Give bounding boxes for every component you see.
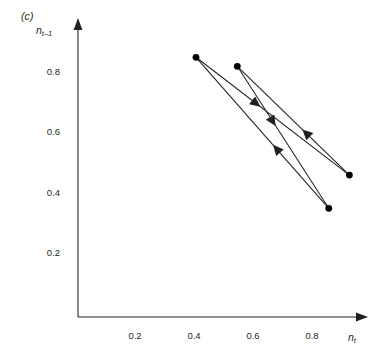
figure-panel-c: (c) nt–1 nt 0.8 0.6 0.4 0.2 0.2 0.4 0.6 … xyxy=(0,0,385,355)
data-point-marker xyxy=(325,205,332,212)
y-axis xyxy=(74,18,83,317)
y-axis-arrowhead-icon xyxy=(74,18,83,30)
trajectory-segment xyxy=(237,66,349,175)
plot-area xyxy=(0,0,385,355)
x-axis-arrowhead-icon xyxy=(356,313,368,322)
data-point-marker xyxy=(346,172,353,179)
trajectory-arrowhead-icon xyxy=(266,114,280,128)
data-point-marker xyxy=(234,63,241,70)
trajectory-series xyxy=(193,54,353,212)
data-point-marker xyxy=(193,54,200,61)
trajectory-segment xyxy=(237,66,328,208)
x-axis xyxy=(78,313,368,322)
